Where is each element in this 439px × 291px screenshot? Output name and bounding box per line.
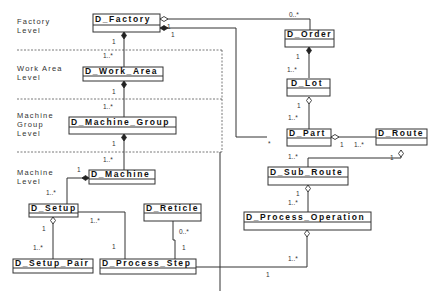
multiplicity-label: 1..* xyxy=(46,189,56,196)
class-d-route[interactable]: D_Route xyxy=(376,128,427,145)
class-d-setup-pair[interactable]: D_Setup_Pair xyxy=(13,258,93,273)
level-label-factory: FactoryLevel xyxy=(17,17,50,35)
multiplicity-label: 1 xyxy=(296,53,300,60)
class-d-reticle[interactable]: D_Reticle xyxy=(144,203,201,221)
class-name: D_Machine_Group xyxy=(71,117,170,127)
multiplicity-label: 1 xyxy=(171,31,175,38)
class-name: D_Setup_Pair xyxy=(15,258,89,268)
multiplicity-label: 1..* xyxy=(103,103,113,110)
multiplicity-label: 1 xyxy=(297,102,301,109)
assoc-route-subroute xyxy=(308,150,401,167)
multiplicity-label: 1 xyxy=(112,140,116,147)
multiplicity-label: 1 xyxy=(182,244,186,251)
multiplicity-label: 1 xyxy=(296,190,300,197)
aggregation-diamond-icon xyxy=(160,17,168,22)
class-d-process-operation[interactable]: D_Process_Operation xyxy=(244,212,371,230)
multiplicity-label: 1..* xyxy=(288,114,298,121)
composition-diamond-icon xyxy=(307,47,312,54)
multiplicity-label: 1 xyxy=(167,23,171,30)
uml-class-diagram: FactoryLevel Work AreaLevel MachineGroup… xyxy=(0,0,439,291)
multiplicity-label: 1..* xyxy=(287,66,297,73)
level-label-machine-group: MachineGroupLevel xyxy=(17,111,54,138)
class-name: D_Process_Step xyxy=(102,258,192,268)
aggregation-diamond-icon xyxy=(399,150,404,157)
class-name: D_Setup xyxy=(31,203,77,213)
class-d-lot[interactable]: D_Lot xyxy=(287,78,330,96)
multiplicity-label: 1 xyxy=(390,154,394,161)
class-name: D_Reticle xyxy=(146,203,199,213)
multiplicity-label: 1 xyxy=(42,225,46,232)
multiplicity-label: 1 xyxy=(112,243,116,250)
class-d-setup[interactable]: D_Setup xyxy=(29,203,78,217)
class-name: D_Route xyxy=(378,128,424,138)
multiplicity-label: 0..* xyxy=(289,11,299,18)
multiplicity-label: 1 xyxy=(340,141,344,148)
multiplicity-label: 1 xyxy=(112,38,116,45)
class-name: D_Order xyxy=(287,29,332,39)
multiplicity-label: 1 xyxy=(77,166,81,173)
multiplicity-label: 1..* xyxy=(288,153,298,160)
multiplicity-label: 1 xyxy=(266,271,270,278)
assoc-reticle-processstep xyxy=(173,221,175,259)
level-label-work-area: Work AreaLevel xyxy=(17,64,63,82)
class-d-work-area[interactable]: D_Work_Area xyxy=(83,66,163,81)
class-d-process-step[interactable]: D_Process_Step xyxy=(100,258,196,274)
multiplicity-label: 1 xyxy=(112,88,116,95)
class-name: D_Lot xyxy=(291,78,323,88)
composition-diamond-icon xyxy=(122,32,127,39)
class-name: D_Work_Area xyxy=(85,66,158,76)
multiplicity-label: 1..* xyxy=(103,156,113,163)
class-d-machine-group[interactable]: D_Machine_Group xyxy=(69,117,176,134)
class-name: D_Sub_Route xyxy=(270,167,343,177)
composition-diamond-icon xyxy=(82,176,89,181)
composition-diamond-icon xyxy=(122,134,127,141)
aggregation-diamond-icon xyxy=(307,97,312,104)
multiplicity-label: 1..* xyxy=(103,52,113,59)
aggregation-diamond-icon xyxy=(305,230,310,237)
aggregation-diamond-icon xyxy=(51,217,56,224)
multiplicity-label: 1..* xyxy=(354,141,364,148)
multiplicity-label: 1..* xyxy=(288,199,298,206)
assoc-setup-processstep xyxy=(78,212,125,259)
class-d-sub-route[interactable]: D_Sub_Route xyxy=(268,167,348,185)
class-name: D_Machine xyxy=(91,169,150,179)
multiplicity-label: 0..* xyxy=(179,228,189,235)
class-name: D_Part xyxy=(289,128,326,138)
multiplicity-label: 1..* xyxy=(33,244,43,251)
class-d-factory[interactable]: D_Factory xyxy=(93,14,160,32)
assoc-machine-setup xyxy=(67,178,89,204)
class-name: D_Process_Operation xyxy=(246,212,365,222)
composition-diamond-icon xyxy=(122,81,127,88)
class-d-order[interactable]: D_Order xyxy=(285,29,334,47)
class-name: D_Factory xyxy=(95,14,151,24)
class-d-part[interactable]: D_Part xyxy=(287,128,331,146)
multiplicity-label: 1..* xyxy=(288,255,298,262)
aggregation-diamond-icon xyxy=(331,135,339,140)
multiplicity-label: * xyxy=(268,140,271,147)
aggregation-diamond-icon xyxy=(306,185,311,192)
multiplicity-label: 1..* xyxy=(90,217,100,224)
level-label-machine: MachineLevel xyxy=(17,168,54,186)
class-d-machine[interactable]: D_Machine xyxy=(89,169,155,184)
